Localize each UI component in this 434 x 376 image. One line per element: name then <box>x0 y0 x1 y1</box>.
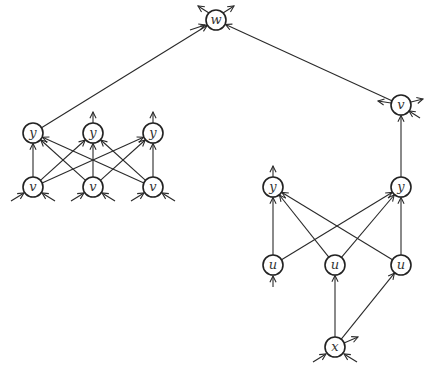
node-yL3: y <box>143 123 163 143</box>
edge-vR-to-w <box>226 24 392 100</box>
edge-u2-to-yR1 <box>280 195 329 257</box>
stub-arrows <box>11 6 423 362</box>
nodes: wyyyvvvvyyuuux <box>23 10 411 357</box>
node-yL1: y <box>23 123 43 143</box>
node-u3: u <box>391 255 411 275</box>
node-label: y <box>88 125 97 140</box>
node-label: v <box>89 179 97 194</box>
node-label: v <box>397 97 405 112</box>
node-vL2: v <box>83 177 103 197</box>
node-label: y <box>268 179 277 194</box>
node-label: v <box>149 179 157 194</box>
node-label: v <box>29 179 37 194</box>
node-label: u <box>269 257 277 272</box>
diagram-canvas: wyyyvvvvyyuuux <box>0 0 434 376</box>
node-yL2: y <box>83 123 103 143</box>
node-label: u <box>331 257 339 272</box>
node-label: y <box>148 125 157 140</box>
node-u2: u <box>325 255 345 275</box>
node-label: y <box>28 125 37 140</box>
node-x: x <box>325 337 345 357</box>
node-yR2: y <box>391 177 411 197</box>
network-graph: wyyyvvvvyyuuux <box>0 0 434 376</box>
edge-x-to-u3 <box>341 273 394 339</box>
node-label: w <box>210 12 221 27</box>
node-vR: v <box>391 95 411 115</box>
node-yR1: y <box>263 177 283 197</box>
node-u1: u <box>263 255 283 275</box>
edge-yL1-to-w <box>42 26 208 128</box>
node-label: x <box>331 339 339 354</box>
node-vL3: v <box>143 177 163 197</box>
node-label: y <box>396 179 405 194</box>
node-vL1: v <box>23 177 43 197</box>
node-label: u <box>397 257 405 272</box>
edge-u2-to-yR2 <box>341 195 394 257</box>
node-w: w <box>206 10 226 30</box>
